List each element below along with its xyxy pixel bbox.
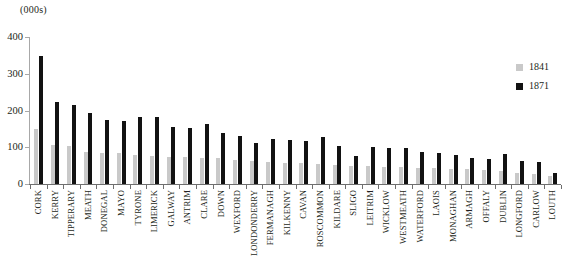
x-axis-label-louth: LOUTH <box>548 190 557 220</box>
x-axis-tick <box>296 185 297 189</box>
bar-1871-fermanagh <box>271 139 275 184</box>
x-axis-tick <box>461 185 462 189</box>
bar-group <box>179 37 196 184</box>
bar-1841-londonderry <box>250 161 254 184</box>
bar-1841-leitrim <box>366 166 370 184</box>
x-axis-label-wrap: ANTRIM <box>179 190 196 278</box>
bar-group <box>478 37 495 184</box>
bar-1841-fermanagh <box>266 162 270 184</box>
x-axis-tick <box>428 185 429 189</box>
x-axis-label-wrap: SLIGO <box>345 190 362 278</box>
bar-1841-down <box>216 158 220 184</box>
x-axis-label-cavan: CAVAN <box>299 190 308 219</box>
y-axis-tick <box>25 147 29 148</box>
bar-1841-meath <box>84 152 88 184</box>
bar-1871-cavan <box>304 141 308 184</box>
bar-1871-offaly <box>487 159 491 184</box>
bar-1871-louth <box>553 173 557 184</box>
bar-1841-clare <box>200 158 204 184</box>
bar-1841-wexford <box>233 160 237 184</box>
x-axis-category-labels: CORKKERRYTIPPERARYMEATHDONEGALMAYOTYRONE… <box>29 190 561 278</box>
bar-1871-down <box>221 133 225 184</box>
bar-1871-leitrim <box>371 147 375 184</box>
bar-1871-laois <box>437 153 441 184</box>
x-axis-label-fermanagh: FERMANAGH <box>266 190 275 245</box>
plot-area: 0100200300400 <box>29 37 561 185</box>
x-axis-tick <box>544 185 545 189</box>
x-axis-label-wrap: WICKLOW <box>378 190 395 278</box>
bar-group <box>63 37 80 184</box>
bar-1841-antrim <box>183 157 187 184</box>
x-axis-ticks <box>29 185 561 189</box>
x-axis-label-wrap: DONEGAL <box>96 190 113 278</box>
bar-1841-westmeath <box>399 167 403 184</box>
y-axis-tick <box>25 111 29 112</box>
bar-1871-donegal <box>105 120 109 184</box>
x-axis-label-wrap: MAYO <box>113 190 130 278</box>
x-axis-label-wrap: MONAGHAN <box>445 190 462 278</box>
x-axis-tick <box>113 185 114 189</box>
x-axis-label-monaghan: MONAGHAN <box>449 190 458 242</box>
bar-1871-monaghan <box>454 155 458 184</box>
bar-1871-kilkenny <box>288 140 292 184</box>
bar-group <box>80 37 97 184</box>
bar-1841-offaly <box>482 170 486 184</box>
bar-1871-tipperary <box>72 105 76 184</box>
x-axis-label-carlow: CARLOW <box>532 190 541 228</box>
x-axis-label-wrap: LONDONDERRY <box>246 190 263 278</box>
bar-group <box>296 37 313 184</box>
x-axis-tick <box>511 185 512 189</box>
bar-1871-galway <box>171 127 175 184</box>
bar-1841-dublin <box>499 171 503 184</box>
x-axis-label-wrap: MEATH <box>80 190 97 278</box>
bar-group <box>445 37 462 184</box>
bar-1841-tipperary <box>67 146 71 184</box>
x-axis-tick <box>146 185 147 189</box>
bar-group <box>461 37 478 184</box>
bar-1871-armagh <box>470 158 474 184</box>
x-axis-label-wrap: CORK <box>30 190 47 278</box>
x-axis-label-kilkenny: KILKENNY <box>283 190 292 235</box>
x-axis-label-wrap: WESTMEATH <box>395 190 412 278</box>
x-axis-label-wrap: LONGFORD <box>511 190 528 278</box>
bar-1871-clare <box>205 124 209 184</box>
x-axis-label-clare: CLARE <box>200 190 209 219</box>
x-axis-label-wrap: KILDARE <box>329 190 346 278</box>
bar-group <box>262 37 279 184</box>
bar-group <box>345 37 362 184</box>
x-axis-label-cork: CORK <box>34 190 43 214</box>
bar-group <box>511 37 528 184</box>
bar-1841-roscommon <box>316 164 320 184</box>
bar-1871-wexford <box>238 136 242 185</box>
x-axis-label-sligo: SLIGO <box>349 190 358 216</box>
x-axis-tick <box>495 185 496 189</box>
x-axis-label-tyrone: TYRONE <box>134 190 143 225</box>
x-axis-label-wrap: LEITRIM <box>362 190 379 278</box>
bar-group <box>362 37 379 184</box>
x-axis-label-wicklow: WICKLOW <box>382 190 391 233</box>
bar-1871-limerick <box>155 117 159 184</box>
bar-1841-limerick <box>150 156 154 184</box>
bar-1871-cork <box>39 56 43 184</box>
bar-1841-cavan <box>299 163 303 184</box>
bar-group <box>146 37 163 184</box>
bar-1841-kilkenny <box>283 163 287 184</box>
bar-group <box>528 37 545 184</box>
legend-swatch-icon <box>516 83 523 90</box>
bar-group <box>229 37 246 184</box>
bar-1841-kildare <box>333 165 337 184</box>
bar-group <box>47 37 64 184</box>
x-axis-label-wrap: DOWN <box>213 190 230 278</box>
bar-1841-mayo <box>117 153 121 184</box>
x-axis-label-offaly: OFFALY <box>482 190 491 223</box>
legend-item-1841[interactable]: 1841 <box>516 62 549 72</box>
x-axis-label-armagh: ARMAGH <box>465 190 474 229</box>
x-axis-label-wrap: WEXFORD <box>229 190 246 278</box>
y-axis-tick-label: 400 <box>7 32 23 43</box>
x-axis-label-dublin: DUBLIN <box>499 190 508 223</box>
x-axis-label-wrap: KERRY <box>47 190 64 278</box>
legend-item-1871[interactable]: 1871 <box>516 81 549 91</box>
bar-group <box>395 37 412 184</box>
x-axis-tick <box>329 185 330 189</box>
x-axis-tick <box>213 185 214 189</box>
